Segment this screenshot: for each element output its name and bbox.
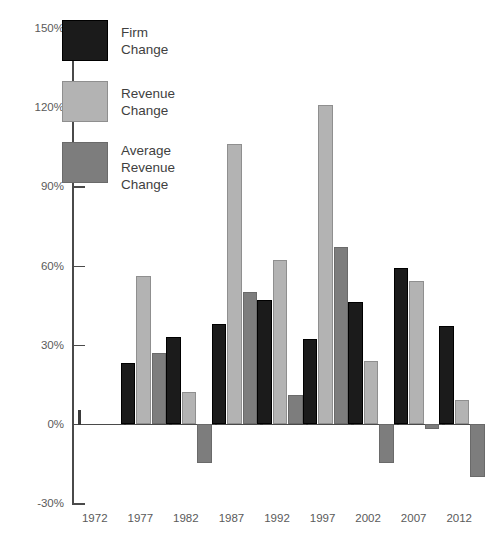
bar-chart: 150%120%90%60%30%0%-30% 1972197719821987… [0,0,490,545]
bar [273,260,288,424]
y-axis-tick-label: 120% [2,101,64,113]
bar [243,292,258,424]
bar [409,281,424,424]
bar [348,302,363,423]
bar [182,392,197,424]
bar [439,326,454,424]
y-axis-tick [72,266,85,268]
bar [288,395,303,424]
bar [257,300,272,424]
bar [166,337,181,424]
y-axis-tick-label: 90% [2,180,64,192]
bar [152,353,167,424]
bar [455,400,470,424]
bar [470,424,485,477]
y-axis-tick [72,345,85,347]
legend-item-average-revenue-change: Average Revenue Change [62,142,175,193]
bar [121,363,136,424]
y-axis-tick-label: 30% [2,339,64,351]
zero-baseline [72,424,482,426]
legend-swatch-average-revenue-change [62,142,108,183]
legend-item-firm-change: Firm Change [62,20,168,61]
legend-label-revenue-change: Revenue Change [121,85,175,119]
legend-label-firm-change: Firm Change [121,24,168,58]
y-axis-tick-label: 150% [2,22,64,34]
bar [303,339,318,423]
bar [425,424,440,429]
bar [334,247,349,424]
group-separator-tick [78,410,81,425]
bar [212,324,227,424]
y-axis-tick-label: -30% [2,497,64,509]
y-axis-tick-label: 60% [2,260,64,272]
y-axis-tick-label: 0% [2,418,64,430]
legend-swatch-firm-change [62,20,108,61]
bar [318,105,333,424]
x-axis-tick-label: 2012 [429,512,489,524]
legend-label-average-revenue-change: Average Revenue Change [121,142,175,193]
bar [227,144,242,424]
legend-item-revenue-change: Revenue Change [62,81,175,122]
bar [394,268,409,424]
y-axis-tick [72,503,85,505]
bar [136,276,151,424]
bar [364,361,379,424]
bar [379,424,394,464]
bar [197,424,212,464]
legend-swatch-revenue-change [62,81,108,122]
